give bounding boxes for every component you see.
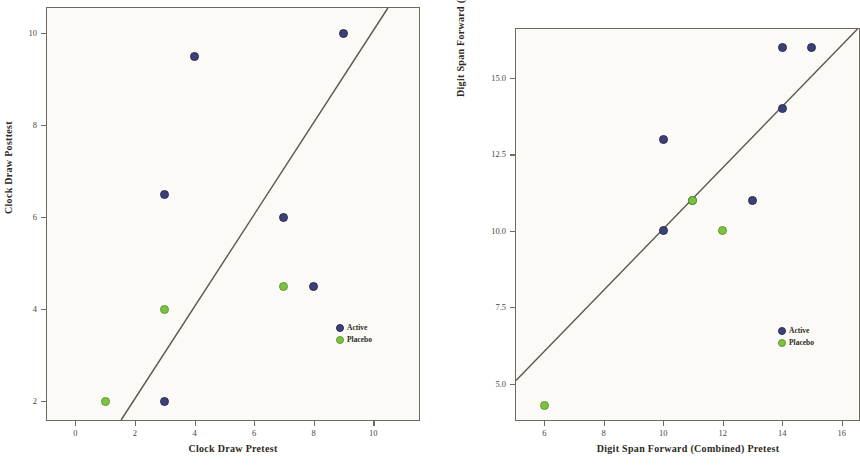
x-tick xyxy=(842,420,843,426)
y-tick-label: 10 xyxy=(29,28,38,38)
x-tick-label: 12 xyxy=(718,428,727,438)
data-point-active xyxy=(160,190,169,199)
panel-digit-span-forward: 68101214165.07.510.012.515.0 Digit Span … xyxy=(430,0,860,468)
x-tick-label: 4 xyxy=(192,428,196,438)
y-axis-title-clock-draw: Clock Draw Posttest xyxy=(3,121,14,214)
y-tick-label: 7.5 xyxy=(495,302,506,312)
data-point-placebo xyxy=(160,305,169,314)
y-tick xyxy=(41,125,47,126)
data-point-active xyxy=(778,104,787,113)
data-point-active xyxy=(160,397,169,406)
y-tick-label: 4 xyxy=(33,304,37,314)
x-tick xyxy=(663,420,664,426)
x-tick-label: 14 xyxy=(778,428,787,438)
y-tick-label: 8 xyxy=(33,120,37,130)
y-tick-label: 12.5 xyxy=(491,149,506,159)
x-axis-title-clock-draw: Clock Draw Pretest xyxy=(188,443,277,454)
legend-clock-draw: Active Placebo xyxy=(336,322,372,346)
x-tick-label: 6 xyxy=(252,428,256,438)
legend-row-placebo[interactable]: Placebo xyxy=(778,337,814,348)
data-point-active xyxy=(659,135,668,144)
x-tick-label: 2 xyxy=(133,428,137,438)
x-tick-label: 10 xyxy=(659,428,668,438)
legend-label-active: Active xyxy=(789,326,809,335)
legend-label-active: Active xyxy=(347,323,367,332)
data-point-placebo xyxy=(101,397,110,406)
x-tick xyxy=(75,420,76,426)
reference-line-digit-span-forward xyxy=(516,29,859,420)
x-tick xyxy=(195,420,196,426)
y-tick-label: 6 xyxy=(33,212,37,222)
data-point-active xyxy=(748,196,757,205)
legend-marker-placebo-icon xyxy=(778,339,786,347)
legend-row-placebo[interactable]: Placebo xyxy=(336,334,372,345)
y-axis-title-digit-span-forward: Digit Span Forward (Combined) Posttest xyxy=(455,0,466,97)
x-tick xyxy=(544,420,545,426)
legend-row-active[interactable]: Active xyxy=(778,325,814,336)
y-tick xyxy=(510,154,516,155)
y-tick-label: 5.0 xyxy=(495,379,506,389)
legend-label-placebo: Placebo xyxy=(347,335,372,344)
x-tick-label: 0 xyxy=(73,428,77,438)
x-tick xyxy=(723,420,724,426)
data-point-active xyxy=(339,29,348,38)
data-point-active xyxy=(190,52,199,61)
x-tick xyxy=(782,420,783,426)
y-tick-label: 10.0 xyxy=(491,226,506,236)
y-tick xyxy=(41,309,47,310)
x-tick-label: 8 xyxy=(602,428,606,438)
x-tick-label: 8 xyxy=(312,428,316,438)
y-tick xyxy=(510,384,516,385)
y-tick xyxy=(510,231,516,232)
legend-marker-active-icon xyxy=(778,327,786,335)
y-tick-label: 15.0 xyxy=(491,73,506,83)
x-tick xyxy=(135,420,136,426)
panel-clock-draw: 0246810246810 Clock Draw Pretest Clock D… xyxy=(0,0,430,468)
x-tick xyxy=(604,420,605,426)
legend-marker-placebo-icon xyxy=(336,336,344,344)
legend-row-active[interactable]: Active xyxy=(336,322,372,333)
data-point-placebo xyxy=(540,401,549,410)
y-tick xyxy=(41,217,47,218)
x-tick xyxy=(314,420,315,426)
reference-line-clock-draw xyxy=(47,8,419,420)
legend-label-placebo: Placebo xyxy=(789,338,814,347)
legend-marker-active-icon xyxy=(336,324,344,332)
legend-digit-span-forward: Active Placebo xyxy=(778,325,814,349)
x-tick-label: 16 xyxy=(837,428,846,438)
x-tick xyxy=(373,420,374,426)
x-axis-title-digit-span-forward: Digit Span Forward (Combined) Pretest xyxy=(597,443,780,454)
x-tick-label: 6 xyxy=(542,428,546,438)
x-tick-label: 10 xyxy=(369,428,378,438)
plot-area-digit-span-forward: 68101214165.07.510.012.515.0 xyxy=(515,28,860,421)
y-tick xyxy=(41,401,47,402)
data-point-active xyxy=(309,282,318,291)
scatterplot-figure: 0246810246810 Clock Draw Pretest Clock D… xyxy=(0,0,860,468)
x-tick xyxy=(254,420,255,426)
y-tick xyxy=(41,33,47,34)
y-tick-label: 2 xyxy=(33,396,37,406)
plot-inner-clock-draw: 0246810246810 xyxy=(47,8,419,420)
y-tick xyxy=(510,307,516,308)
y-tick xyxy=(510,78,516,79)
data-point-active xyxy=(778,43,787,52)
plot-area-clock-draw: 0246810246810 xyxy=(46,7,420,421)
plot-inner-digit-span-forward: 68101214165.07.510.012.515.0 xyxy=(516,29,859,420)
